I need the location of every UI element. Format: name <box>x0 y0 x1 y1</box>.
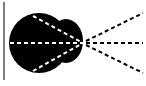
outer-ray-lower <box>86 45 143 73</box>
diagram-canvas <box>0 0 146 86</box>
outer-rays <box>86 13 143 73</box>
outer-ray-upper <box>86 13 143 41</box>
